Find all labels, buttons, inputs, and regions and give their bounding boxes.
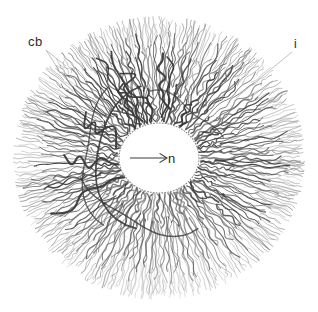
leader-line-cb-1: [46, 50, 66, 66]
figure-root: cbin: [0, 0, 318, 312]
label-n: n: [168, 151, 176, 166]
cell-illustration: cbin: [0, 0, 318, 312]
label-cb: cb: [28, 34, 43, 49]
label-i: i: [294, 37, 297, 51]
